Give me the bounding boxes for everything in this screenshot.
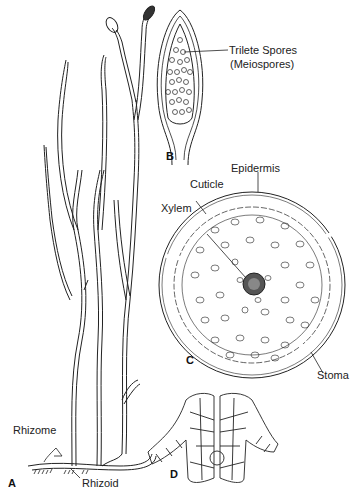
sporangium-closed bbox=[141, 4, 157, 22]
spores bbox=[166, 38, 193, 115]
panel-label-a: A bbox=[8, 477, 16, 489]
label-trilete-spores: Trilete Spores bbox=[229, 44, 297, 56]
rhizoids bbox=[34, 469, 88, 474]
label-meiospores: (Meiospores) bbox=[230, 58, 294, 70]
panel-label-c: C bbox=[186, 354, 194, 366]
label-rhizoid: Rhizoid bbox=[82, 477, 119, 489]
panel-label-b: B bbox=[166, 150, 174, 162]
sporangium-section bbox=[157, 10, 228, 165]
label-epidermis: Epidermis bbox=[231, 162, 280, 174]
diagram-canvas bbox=[0, 0, 359, 492]
label-stoma: Stoma bbox=[317, 369, 349, 381]
panel-label-d: D bbox=[170, 468, 178, 480]
label-xylem: Xylem bbox=[161, 202, 192, 214]
label-cuticle: Cuticle bbox=[190, 178, 224, 190]
plant-illustration bbox=[28, 4, 157, 478]
stoma-detail bbox=[148, 393, 278, 482]
label-rhizome: Rhizome bbox=[13, 424, 56, 436]
